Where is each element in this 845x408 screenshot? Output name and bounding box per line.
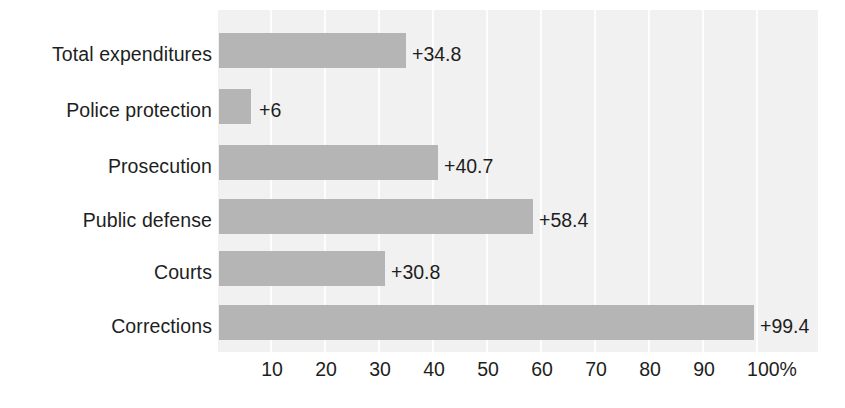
value-label-public-defense: +58.4 [539, 211, 588, 231]
xtick-label-30: 30 [369, 360, 391, 380]
xtick-label-40: 40 [423, 360, 445, 380]
xtick-label-50: 50 [477, 360, 499, 380]
plot-area [218, 10, 818, 352]
bar-courts [219, 251, 385, 286]
xtick-label-100: 100% [747, 360, 797, 380]
category-label-courts: Courts [154, 263, 212, 283]
xtick-label-60: 60 [531, 360, 553, 380]
category-label-prosecution: Prosecution [108, 157, 212, 177]
value-label-police-protection: +6 [259, 101, 281, 121]
xtick-label-10: 10 [261, 360, 283, 380]
xtick-label-80: 80 [639, 360, 661, 380]
bar-total-expenditures [219, 33, 406, 68]
category-label-public-defense: Public defense [83, 211, 212, 231]
gridline-70 [594, 10, 596, 352]
gridline-80 [648, 10, 650, 352]
bar-prosecution [219, 145, 438, 180]
value-label-prosecution: +40.7 [444, 157, 493, 177]
bar-police-protection [219, 89, 251, 124]
category-label-corrections: Corrections [111, 317, 212, 337]
value-label-corrections: +99.4 [760, 317, 809, 337]
xtick-label-70: 70 [585, 360, 607, 380]
bar-public-defense [219, 199, 533, 234]
value-label-courts: +30.8 [391, 263, 440, 283]
value-label-total-expenditures: +34.8 [412, 45, 461, 65]
gridline-50 [486, 10, 488, 352]
gridline-90 [702, 10, 704, 352]
bar-corrections [219, 305, 754, 340]
bar-chart: Total expenditures Police protection Pro… [0, 0, 845, 408]
category-label-total-expenditures: Total expenditures [52, 45, 212, 65]
xtick-label-20: 20 [315, 360, 337, 380]
category-label-police-protection: Police protection [66, 101, 212, 121]
gridline-100 [756, 10, 758, 352]
gridline-60 [540, 10, 542, 352]
xtick-label-90: 90 [693, 360, 715, 380]
